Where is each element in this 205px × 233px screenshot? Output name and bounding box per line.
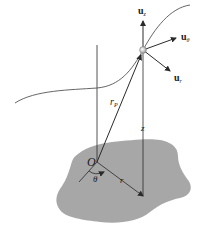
label-ur: ur [174,73,182,84]
label-rp-sub: P [114,102,118,108]
label-theta: θ [93,175,97,184]
particle-p [140,47,147,54]
label-r: r [120,176,124,185]
label-ur-sub: r [180,78,182,84]
label-utheta: uθ [181,32,190,43]
unit-vector-ur [143,50,170,71]
particle-path-curve [15,5,190,103]
label-z: z [141,124,145,133]
label-utheta-sub: θ [187,37,190,43]
cylindrical-coordinates-diagram [0,0,205,233]
label-uz: uz [138,6,146,17]
label-origin: O [87,156,96,168]
label-rp: rP [110,97,118,108]
label-uz-sub: z [144,11,146,17]
unit-vector-utheta [143,38,176,50]
